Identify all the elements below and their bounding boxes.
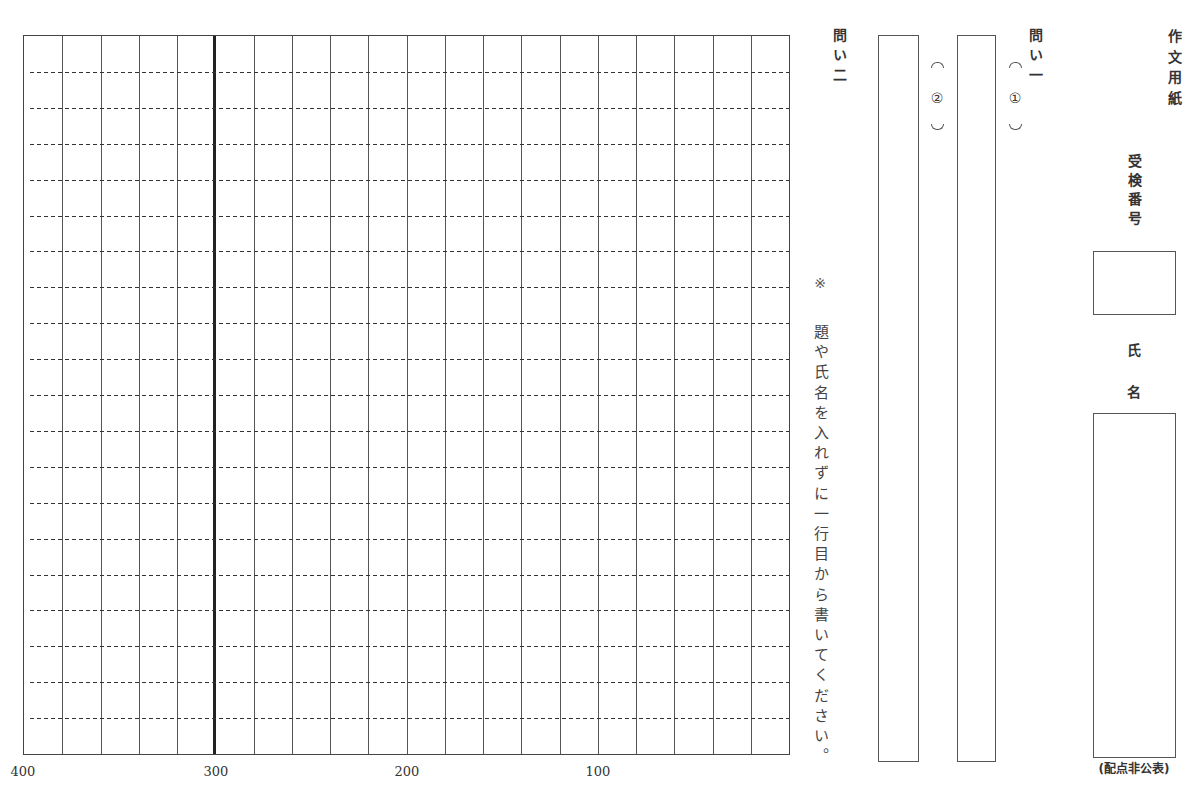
char-count-label: 200: [387, 764, 427, 779]
instruction-note: 題や氏名を入れずに一行目から書いてください。: [812, 324, 827, 768]
open-bracket-icon: [931, 62, 944, 68]
grid-row-dashed-line: [30, 467, 789, 468]
grid-row-dashed-line: [30, 180, 789, 181]
manuscript-grid: [23, 35, 790, 755]
grid-row-dashed-line: [30, 216, 789, 217]
grid-row-dashed-line: [30, 251, 789, 252]
score-note: (配点非公表): [1084, 759, 1184, 776]
grid-row-dashed-line: [30, 718, 789, 719]
close-bracket-icon: [931, 124, 944, 130]
grid-row-dashed-line: [30, 503, 789, 504]
grid-row-dashed-line: [30, 539, 789, 540]
grid-row-dashed-line: [30, 144, 789, 145]
name-label-char: 氏: [1124, 343, 1144, 357]
grid-row-dashed-line: [30, 682, 789, 683]
grid-row-dashed-line: [30, 108, 789, 109]
char-count-label: 100: [578, 764, 618, 779]
question1-part1-answer-box: [957, 35, 996, 762]
name-label-char: 名: [1124, 385, 1144, 399]
grid-row-dashed-line: [30, 395, 789, 396]
grid-row-dashed-line: [30, 431, 789, 432]
note-mark-icon: ※: [811, 276, 829, 290]
char-count-label: 300: [196, 764, 236, 779]
grid-row-dashed-line: [30, 575, 789, 576]
grid-row-dashed-line: [30, 359, 789, 360]
question2-label: 問い二: [832, 28, 846, 88]
sheet-title: 作文用紙: [1167, 29, 1181, 111]
open-bracket-icon: [1009, 62, 1022, 68]
exam-number-box: [1093, 251, 1176, 315]
grid-row-dashed-line: [30, 610, 789, 611]
close-bracket-icon: [1009, 124, 1022, 130]
name-box: [1093, 413, 1176, 758]
part-number: ②: [927, 91, 947, 105]
grid-row-dashed-line: [30, 287, 789, 288]
char-count-label: 400: [3, 764, 43, 779]
grid-row-dashed-line: [30, 72, 789, 73]
exam-number-label: 受検番号: [1127, 154, 1141, 230]
question1-part2-answer-box: [878, 35, 919, 762]
grid-row-dashed-line: [30, 323, 789, 324]
question1-label: 問い一: [1028, 28, 1042, 88]
grid-row-dashed-line: [30, 646, 789, 647]
part-number: ①: [1005, 91, 1025, 105]
